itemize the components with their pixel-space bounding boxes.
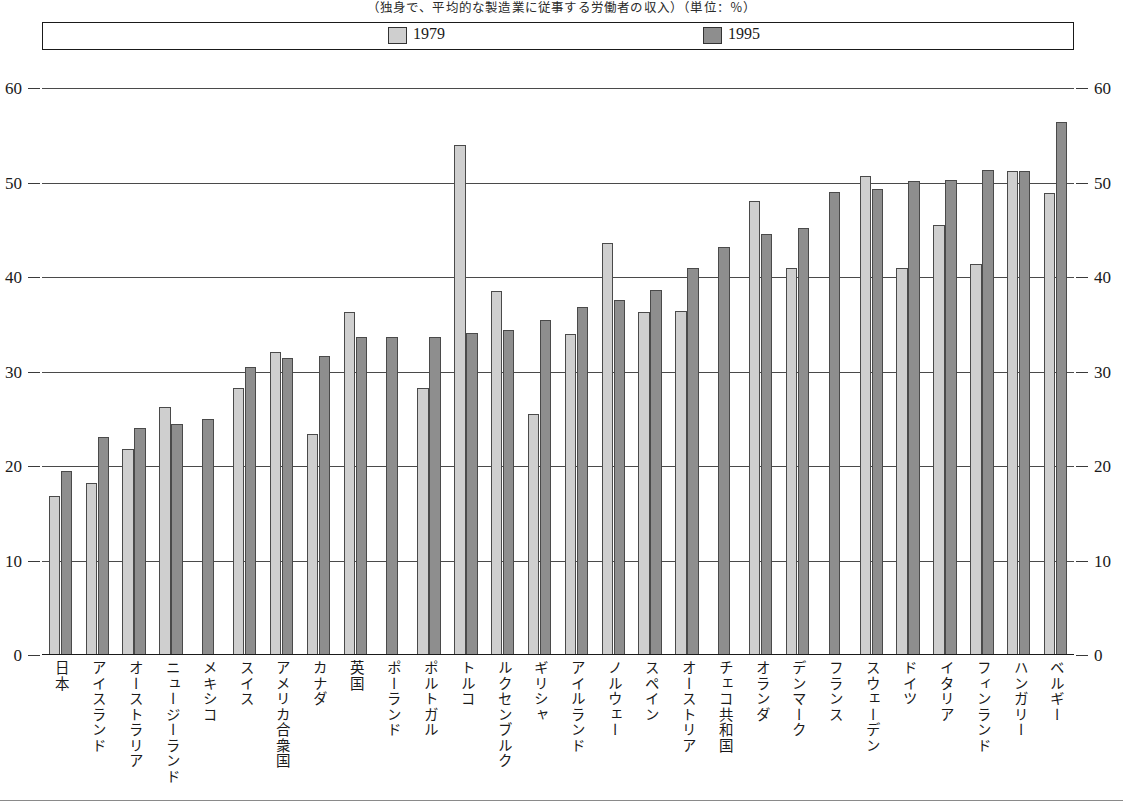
- bar-1979: [344, 312, 356, 655]
- bar-group: [374, 88, 411, 655]
- bar-1979: [233, 388, 245, 655]
- x-axis-label: アイスランド: [89, 660, 104, 753]
- y-tick-mark: [28, 655, 40, 656]
- y-axis-tick-label: 60: [1094, 80, 1111, 97]
- legend-label: 1979: [413, 26, 445, 44]
- x-axis-label: フランス: [826, 660, 841, 722]
- bar-group: [779, 88, 816, 655]
- bar-group: [79, 88, 116, 655]
- bar-1995: [503, 330, 515, 655]
- y-axis-tick-label: 0: [14, 647, 23, 664]
- y-tick-mark: [28, 561, 40, 562]
- y-tick-mark: [1076, 561, 1088, 562]
- bar-group: [853, 88, 890, 655]
- y-axis-tick-label: 0: [1094, 647, 1103, 664]
- bar-1995: [356, 337, 368, 655]
- chart-legend: 19791995: [42, 22, 1074, 50]
- bars-layer: [42, 88, 1074, 655]
- bar-1995: [614, 300, 626, 655]
- bar-1979: [491, 291, 503, 655]
- bar-group: [816, 88, 853, 655]
- y-axis-tick-label: 20: [1094, 458, 1111, 475]
- bar-1995: [872, 189, 884, 655]
- x-axis-label: スペイン: [642, 660, 657, 722]
- bar-group: [484, 88, 521, 655]
- bar-1979: [1007, 171, 1019, 655]
- x-axis-label: ポーランド: [384, 660, 399, 738]
- bar-group: [595, 88, 632, 655]
- bar-1995: [171, 424, 183, 655]
- bar-1995: [829, 192, 841, 655]
- y-axis-tick-label: 40: [1094, 269, 1111, 286]
- y-tick-mark: [28, 277, 40, 278]
- bar-1979: [896, 268, 908, 655]
- bar-group: [669, 88, 706, 655]
- y-axis-tick-label: 50: [1094, 174, 1111, 191]
- bar-1995: [650, 290, 662, 655]
- bar-1979: [122, 449, 134, 655]
- y-axis-tick-label: 30: [1094, 363, 1111, 380]
- y-tick-mark: [1076, 372, 1088, 373]
- bar-1995: [202, 419, 214, 655]
- bar-group: [189, 88, 226, 655]
- x-axis-label: ノルウェー: [605, 660, 620, 738]
- bar-1995: [761, 234, 773, 655]
- bar-group: [153, 88, 190, 655]
- y-tick-mark: [1076, 88, 1088, 89]
- x-axis-label: アメリカ合衆国: [274, 660, 289, 769]
- bar-1979: [86, 483, 98, 655]
- bar-1979: [417, 388, 429, 655]
- bar-1979: [638, 312, 650, 655]
- bar-group: [226, 88, 263, 655]
- x-axis-label: メキシコ: [200, 660, 215, 722]
- y-axis-tick-label: 10: [1094, 552, 1111, 569]
- x-axis-label: デンマーク: [790, 660, 805, 738]
- x-axis-label: オランダ: [753, 660, 768, 722]
- legend-entry-1995: 1995: [703, 26, 760, 44]
- x-axis-label: ベルギー: [1048, 660, 1063, 722]
- x-axis-label: ルクセンブルク: [495, 660, 510, 769]
- bar-1979: [1044, 193, 1056, 655]
- bar-1979: [307, 434, 319, 655]
- y-axis-tick-label: 60: [5, 80, 22, 97]
- y-tick-mark: [28, 183, 40, 184]
- bar-1979: [454, 145, 466, 655]
- bar-group: [927, 88, 964, 655]
- bar-1995: [577, 307, 589, 655]
- bar-group: [1037, 88, 1074, 655]
- bar-1995: [319, 356, 331, 655]
- y-axis-tick-label: 20: [5, 458, 22, 475]
- legend-label: 1995: [728, 26, 760, 44]
- y-tick-mark: [1076, 277, 1088, 278]
- y-axis-tick-label: 10: [5, 552, 22, 569]
- x-axis-label: ドイツ: [900, 660, 915, 707]
- x-axis-label: ポルトガル: [421, 660, 436, 738]
- plot-area: 00101020203030404050506060: [42, 88, 1074, 655]
- bar-group: [447, 88, 484, 655]
- x-axis-label: フィンランド: [974, 660, 989, 753]
- chart-root: （独身で、平均的な製造業に従事する労働者の収入）（単位：％） 19791995 …: [0, 0, 1123, 804]
- y-axis-tick-label: 40: [5, 269, 22, 286]
- x-axis-label: スイス: [237, 660, 252, 707]
- bar-group: [705, 88, 742, 655]
- bar-1979: [749, 201, 761, 655]
- x-axis-label: オーストリア: [679, 660, 694, 753]
- bar-1979: [675, 311, 687, 655]
- bar-1995: [282, 358, 294, 655]
- x-axis-label: チェコ共和国: [716, 660, 731, 753]
- bar-1979: [49, 496, 61, 655]
- bar-group: [116, 88, 153, 655]
- y-tick-mark: [1076, 183, 1088, 184]
- bar-1995: [687, 268, 699, 655]
- bar-1979: [528, 414, 540, 655]
- bar-1979: [565, 334, 577, 655]
- bar-1995: [61, 471, 73, 655]
- y-tick-mark: [28, 372, 40, 373]
- bar-1995: [540, 320, 552, 655]
- bar-1995: [945, 180, 957, 655]
- bar-1979: [159, 407, 171, 655]
- y-tick-mark: [1076, 466, 1088, 467]
- x-axis-label: トルコ: [458, 660, 473, 707]
- legend-entry-1979: 1979: [388, 26, 445, 44]
- bar-1979: [970, 264, 982, 655]
